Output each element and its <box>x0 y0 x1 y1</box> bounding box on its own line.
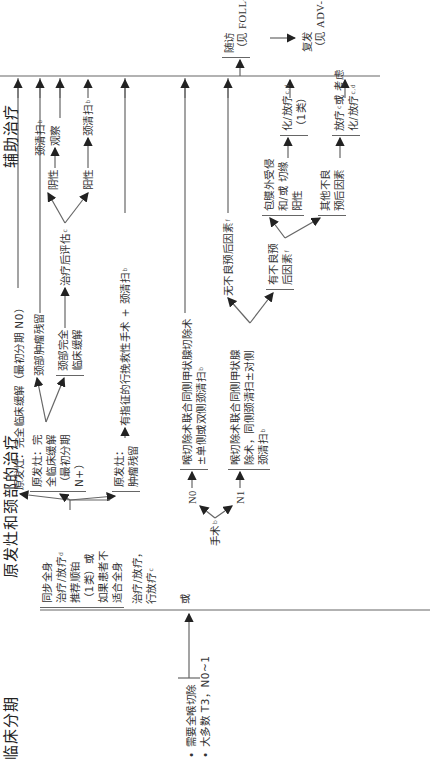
neck-complete-response: 颈部完全 临床缓解 <box>56 329 84 376</box>
footnote: c <box>147 568 154 572</box>
rt-or-line: 化/放疗c,d <box>346 70 360 131</box>
n1-box-line: 喉切除术联合同侧甲状腺 <box>228 350 242 466</box>
neck-cr-line: 临床缓解 <box>70 329 84 371</box>
ece-line: 和/或 切缘 <box>276 159 290 212</box>
negative-result: 阴性 <box>46 169 60 190</box>
primary-cr-n-plus: 原发灶：完 全临床缓解 （最初分期 N+） <box>30 435 86 493</box>
salvage-text: 有指征的行挽救性手术 + 颈清扫 <box>119 273 131 426</box>
recurrence-reference-link[interactable]: （见 ADV-2） <box>314 0 328 52</box>
no-adverse-text: 无不良预后因素 <box>222 223 234 297</box>
recurrence: 复发 （见 ADV-2） <box>300 0 328 52</box>
rt-or-text: 放疗 <box>333 110 345 131</box>
footnote: b <box>121 267 128 271</box>
option-chemo-line: 同步全身 <box>40 551 54 604</box>
primary-complete-response: 原发灶：完全临床缓解（最初分期 N0） <box>12 303 26 490</box>
follow-up: 随访 （见 FOLL-A） <box>222 0 250 58</box>
flowchart-canvas: 临床分期 原发灶和颈部的治疗 辅助治疗 • 需要全喉切除 • 大多数 T3，N0… <box>0 0 430 768</box>
option-rt-line: 治疗/放疗， <box>130 547 144 604</box>
n1-box-text: 颈清扫 <box>257 434 269 466</box>
header-adjuvant-treatment: 辅助治疗 <box>2 104 20 168</box>
adverse-text: 后因素 <box>281 254 293 286</box>
ece-line: 阳性 <box>290 159 304 212</box>
footnote: b <box>84 99 91 103</box>
option-chemo-line: 推荐顺铂 <box>68 551 82 604</box>
n0-box-line: ±单侧或双侧颈清扫b <box>194 318 208 465</box>
footnote: c,d <box>349 84 356 95</box>
n1-box-line: 颈清扫b <box>256 350 270 466</box>
n1-box-line: 除术，同侧颈清扫±对侧 <box>242 350 256 466</box>
salvage-surgery: 有指征的行挽救性手术 + 颈清扫b <box>118 267 132 426</box>
follow-up-reference-link[interactable]: （见 FOLL-A） <box>236 0 250 53</box>
ece-line: 包膜外受侵 <box>262 159 276 212</box>
clinical-stage-criteria: • 需要全喉切除 • 大多数 T3，N0~1 <box>184 656 212 758</box>
n0-label: N0 <box>186 490 200 504</box>
no-adverse-factors: 无不良预后因素f <box>221 219 235 296</box>
ece-positive-margins: 包膜外受侵 和/或 切缘 阳性 <box>262 159 304 217</box>
neck-dissection-2: 颈清扫b <box>81 99 95 136</box>
nd-text: 颈清扫 <box>34 125 46 157</box>
option-chemo-line: 如果患者不 <box>96 551 110 604</box>
footnote: b <box>36 119 43 123</box>
n1-surgery-box: 喉切除术联合同侧甲状腺 除术，同侧颈清扫±对侧 颈清扫b <box>228 350 270 471</box>
stage-bullet-2: • 大多数 T3，N0~1 <box>198 656 212 758</box>
footnote: b <box>211 520 218 524</box>
option-chemo-line: 治疗/放疗d <box>54 551 68 604</box>
recurrence-label: 复发 <box>300 0 314 52</box>
footnote: c,d <box>283 84 290 95</box>
cr-n-plus-line: （最初分期 <box>58 435 72 488</box>
chemo-rt-1-text: 化/放疗 <box>281 95 293 131</box>
chemo-rt-2-text: 化/放疗 <box>347 95 359 131</box>
cr-n-plus-line: 原发灶：完 <box>30 435 44 488</box>
rt-or-chemoradiation: 放疗c或 考虑 化/放疗c,d <box>332 70 360 136</box>
chemoradiation-category-1: 化/放疗c,d （1类） <box>280 84 308 136</box>
or-label: 或 <box>178 594 192 605</box>
neck-residual: 颈部肿瘤残留 <box>32 313 46 376</box>
option-rt-text: 行放疗 <box>145 573 157 605</box>
cr-n-plus-line: 全临床缓解 <box>44 435 58 488</box>
other-adverse-line: 其他不良 <box>318 169 332 211</box>
option-rt-line: 行放疗c <box>144 547 158 604</box>
rt-or-tail: 或 考虑 <box>333 70 345 105</box>
connector-lines <box>0 0 430 768</box>
chemo-rt-1-line: （1类） <box>294 84 308 131</box>
option-chemo-text: 治疗/放疗 <box>55 557 67 603</box>
primary-residual-line: 原发灶： <box>112 445 126 487</box>
primary-residual-line: 肿瘤残留 <box>126 445 140 487</box>
option-radiation: 治疗/放疗， 行放疗c <box>130 547 158 608</box>
primary-residual: 原发灶： 肿瘤残留 <box>112 445 140 492</box>
option-chemoradiation: 同步全身 治疗/放疗d 推荐顺铂 （1类）或 如果患者不 适合全身 <box>40 551 124 609</box>
footnote: b <box>197 366 204 370</box>
adverse-factors: 有不良预 后因素f <box>266 243 294 290</box>
footnote: d <box>57 552 64 556</box>
footnote: b <box>259 428 266 432</box>
other-adverse-factors: 其他不良 预后因素 <box>318 169 346 216</box>
header-clinical-stage: 临床分期 <box>2 696 20 760</box>
neck-cr-line: 颈部完全 <box>56 329 70 371</box>
footnote: c <box>61 229 68 233</box>
adverse-line: 后因素f <box>280 243 294 285</box>
footnote: c <box>335 105 342 109</box>
other-adverse-line: 预后因素 <box>332 169 346 211</box>
n0-box-line: 喉切除术联合同侧甲状腺切除术 <box>180 318 194 465</box>
positive-result: 阳性 <box>81 169 95 190</box>
stage-bullet-1: • 需要全喉切除 <box>184 656 198 758</box>
adverse-line: 有不良预 <box>266 243 280 285</box>
rt-or-line: 放疗c或 考虑 <box>332 70 346 131</box>
neck-dissection-1: 颈清扫b <box>33 119 47 156</box>
n0-box-text: ±单侧或双侧颈清扫 <box>195 372 207 465</box>
post-treatment-evaluation: 治疗后评估c <box>58 229 72 286</box>
n0-surgery-box: 喉切除术联合同侧甲状腺切除术 ±单侧或双侧颈清扫b <box>180 318 208 470</box>
observe: 观察 <box>48 125 62 146</box>
option-chemo-line: （1类）或 <box>82 551 96 604</box>
follow-up-label: 随访 <box>222 0 236 53</box>
post-eval-text: 治疗后评估 <box>59 234 71 287</box>
chemo-rt-1-line: 化/放疗c,d <box>280 84 294 131</box>
cr-n-plus-line: N+） <box>72 435 86 488</box>
nd-text: 颈清扫 <box>82 105 94 137</box>
surgery-text: 手术 <box>209 525 221 546</box>
surgery-label: 手术b <box>208 520 222 546</box>
n1-label: N1 <box>234 490 248 504</box>
option-chemo-line: 适合全身 <box>110 551 124 604</box>
